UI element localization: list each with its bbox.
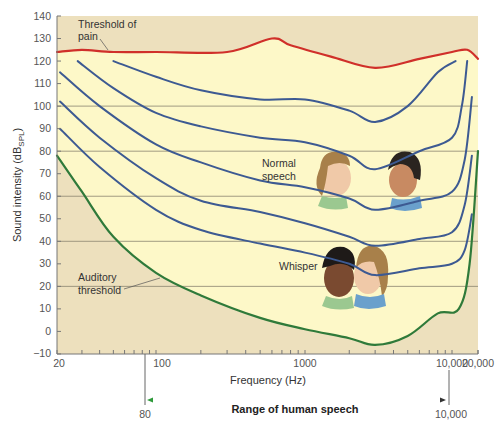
y-tick-label: 120 <box>33 55 51 67</box>
x-axis-title: Frequency (Hz) <box>230 374 306 386</box>
equal-loudness-chart: 1401301201101009080706050403020100−10 20… <box>0 0 503 424</box>
y-tick-label: 40 <box>39 235 51 247</box>
annotation-whisper: Whisper <box>279 260 318 272</box>
annotation-normal-speech: Normal speech <box>262 157 299 182</box>
y-axis-title: Sound intensity (dBSPL) <box>11 128 26 242</box>
y-tick-label: 100 <box>33 100 51 112</box>
y-tick-label: 110 <box>34 77 51 89</box>
x-tick-label: 20,000 <box>462 357 494 369</box>
y-tick-label: 30 <box>39 257 51 269</box>
y-tick-label: 60 <box>39 190 51 202</box>
y-tick-label: 80 <box>39 145 51 157</box>
y-tick-label: 90 <box>39 122 51 134</box>
x-tick-label: 1000 <box>293 357 317 369</box>
y-tick-label: 70 <box>39 167 51 179</box>
x-tick-label: 100 <box>153 357 171 369</box>
y-tick-label: 0 <box>45 325 51 337</box>
y-tick-label: 20 <box>39 280 51 292</box>
speech-range-to-label: 10,000 <box>435 408 467 420</box>
arrow-left-icon <box>147 398 153 403</box>
x-tick-label: 20 <box>53 357 65 369</box>
arrow-right-icon <box>440 398 446 403</box>
annotation-auditory-threshold: Auditory threshold <box>78 271 121 296</box>
speech-range-title: Range of human speech <box>231 403 358 415</box>
speech-range-from-label: 80 <box>139 408 151 420</box>
y-tick-label: 140 <box>33 10 51 22</box>
y-tick-label: 50 <box>39 212 51 224</box>
face-girl-whisper-icon <box>354 246 388 309</box>
y-tick-label: 130 <box>33 32 51 44</box>
face-boy-dark-icon <box>322 247 355 310</box>
y-tick-label: 10 <box>39 302 51 314</box>
y-tick-label: −10 <box>33 347 51 359</box>
